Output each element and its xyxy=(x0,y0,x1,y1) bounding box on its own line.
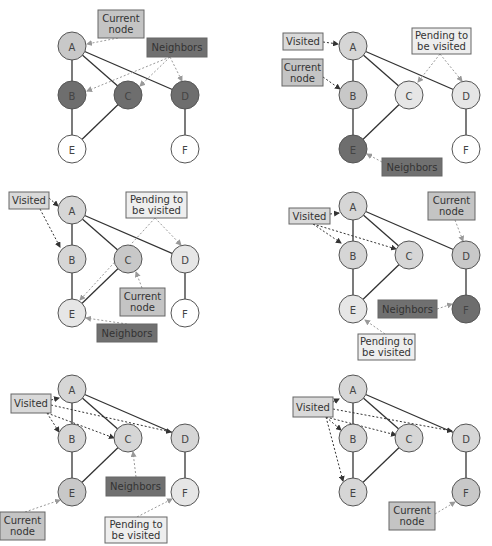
node-b: B xyxy=(58,245,86,273)
node-label: F xyxy=(463,488,469,499)
node-label: F xyxy=(182,309,188,320)
node-d: D xyxy=(452,424,480,452)
label-text: be visited xyxy=(417,41,466,52)
label-text: Visited xyxy=(14,398,48,409)
annotation-arrow xyxy=(437,304,452,309)
annotation-arrow xyxy=(330,213,339,214)
pending-label-box: Pending tobe visited xyxy=(105,517,167,543)
label-text: Current xyxy=(124,291,162,302)
pending-label-box: Pending tobe visited xyxy=(126,192,187,218)
label-text: Visited xyxy=(286,36,320,47)
current-label-box: Currentnode xyxy=(0,512,45,540)
label-text: Neighbors xyxy=(152,42,203,53)
node-label: E xyxy=(350,305,356,316)
node-a: A xyxy=(58,196,86,224)
annotation-arrow xyxy=(51,398,59,400)
label-text: node xyxy=(439,206,464,217)
pending-label-box: Pending tobe visited xyxy=(358,334,415,360)
node-label: D xyxy=(181,434,189,445)
label-text: Pending to xyxy=(360,336,413,347)
annotation-arrow xyxy=(323,77,340,89)
node-label: F xyxy=(463,145,469,156)
node-d: D xyxy=(452,241,480,269)
label-text: Current xyxy=(102,13,140,24)
node-label: E xyxy=(69,145,75,156)
bfs-step-panel-2: ABCDEFVisitedCurrentnodePending tobe vis… xyxy=(282,28,480,176)
node-c: C xyxy=(395,81,423,109)
label-text: be visited xyxy=(112,530,161,541)
node-a: A xyxy=(58,375,86,403)
label-text: Current xyxy=(433,195,471,206)
node-label: D xyxy=(462,434,470,445)
visited-label-box: Visited xyxy=(293,397,333,417)
label-text: Current xyxy=(393,505,431,516)
node-label: C xyxy=(406,91,413,102)
annotation-arrow xyxy=(86,318,127,324)
node-e: E xyxy=(339,135,367,163)
label-text: Visited xyxy=(12,195,46,206)
label-text: node xyxy=(400,516,425,527)
node-label: D xyxy=(462,91,470,102)
node-label: B xyxy=(350,434,357,445)
current-label-box: Currentnode xyxy=(120,288,165,316)
annotation-arrow xyxy=(87,38,118,44)
annotation-arrow xyxy=(326,417,343,481)
node-d: D xyxy=(452,81,480,109)
node-b: B xyxy=(339,81,367,109)
node-label: A xyxy=(69,385,76,396)
node-label: F xyxy=(182,488,188,499)
annotation-arrow xyxy=(47,413,59,432)
node-label: B xyxy=(69,255,76,266)
node-e: E xyxy=(58,478,86,506)
node-label: A xyxy=(350,202,357,213)
annotation-arrow xyxy=(313,224,341,243)
label-text: node xyxy=(109,24,134,35)
annotation-arrow xyxy=(133,452,136,477)
node-label: E xyxy=(350,488,356,499)
node-b: B xyxy=(58,81,86,109)
node-b: B xyxy=(58,424,86,452)
visited-label-box: Visited xyxy=(9,192,49,209)
bfs-step-panel-6: ABCDEFVisitedCurrentnode xyxy=(293,375,480,530)
node-f: F xyxy=(171,478,199,506)
annotation-arrow xyxy=(435,502,455,514)
node-label: A xyxy=(69,206,76,217)
node-label: C xyxy=(406,251,413,262)
node-f: F xyxy=(171,135,199,163)
bfs-step-panel-5: ABCDEFVisitedNeighborsCurrentnodePending… xyxy=(0,375,199,543)
node-c: C xyxy=(395,424,423,452)
node-label: F xyxy=(182,145,188,156)
annotation-arrow xyxy=(440,54,462,81)
node-label: E xyxy=(350,145,356,156)
current-label-box: Currentnode xyxy=(282,59,323,86)
node-f: F xyxy=(452,295,480,323)
node-a: A xyxy=(339,192,367,220)
label-text: Current xyxy=(284,62,322,73)
neighbors-label-box: Neighbors xyxy=(106,477,165,496)
bfs-diagram: ABCDEFCurrentnodeNeighborsABCDEFVisitedC… xyxy=(0,0,492,546)
node-label: A xyxy=(350,42,357,53)
node-label: A xyxy=(69,42,76,53)
label-text: node xyxy=(290,73,315,84)
node-e: E xyxy=(58,135,86,163)
node-label: D xyxy=(181,255,189,266)
node-f: F xyxy=(452,478,480,506)
node-e: E xyxy=(339,478,367,506)
node-label: C xyxy=(406,434,413,445)
node-d: D xyxy=(171,245,199,273)
node-a: A xyxy=(58,32,86,60)
bfs-step-panel-1: ABCDEFCurrentnodeNeighbors xyxy=(58,10,207,163)
node-label: B xyxy=(350,251,357,262)
visited-label-box: Visited xyxy=(11,394,51,413)
label-text: node xyxy=(10,526,35,537)
node-label: C xyxy=(125,255,132,266)
node-c: C xyxy=(114,81,142,109)
label-text: Visited xyxy=(296,402,330,413)
bfs-step-panel-3: ABCDEFVisitedPending tobe visitedCurrent… xyxy=(9,192,199,342)
annotation-arrow xyxy=(367,154,382,162)
node-label: E xyxy=(69,309,75,320)
label-text: be visited xyxy=(362,347,411,358)
node-label: E xyxy=(69,488,75,499)
bfs-step-panel-4: ABCDEFVisitedCurrentnodeNeighborsPending… xyxy=(289,192,480,360)
node-label: C xyxy=(125,434,132,445)
